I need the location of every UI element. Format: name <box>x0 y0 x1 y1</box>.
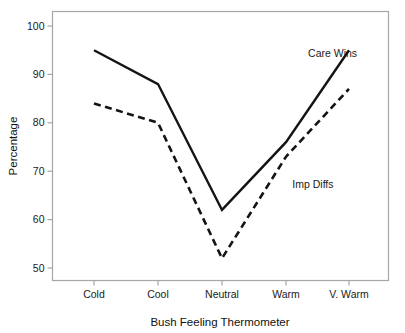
x-tick-label: Warm <box>272 288 300 300</box>
series-line-imp-diffs <box>94 89 349 258</box>
y-axis-title: Percentage <box>7 117 19 176</box>
y-tick-label: 70 <box>33 165 45 177</box>
line-chart-figure: 5060708090100 ColdCoolNeutralWarmV. Warm… <box>0 0 405 333</box>
x-tick-label: V. Warm <box>329 288 369 300</box>
y-tick-label: 90 <box>33 68 45 80</box>
y-axis-ticks: 5060708090100 <box>27 20 53 274</box>
y-tick-label: 60 <box>33 213 45 225</box>
x-axis-title: Bush Feeling Thermometer <box>150 316 289 328</box>
y-tick-label: 50 <box>33 262 45 274</box>
x-tick-label: Cold <box>83 288 105 300</box>
x-tick-label: Cool <box>147 288 169 300</box>
x-axis-ticks: ColdCoolNeutralWarmV. Warm <box>83 281 369 300</box>
chart-canvas: 5060708090100 ColdCoolNeutralWarmV. Warm… <box>0 0 405 333</box>
series-annotation-imp-diffs: Imp Diffs <box>292 178 333 190</box>
y-tick-label: 100 <box>27 20 45 32</box>
y-tick-label: 80 <box>33 116 45 128</box>
x-tick-label: Neutral <box>205 288 239 300</box>
series-annotation-care-wins: Care Wins <box>308 47 357 59</box>
